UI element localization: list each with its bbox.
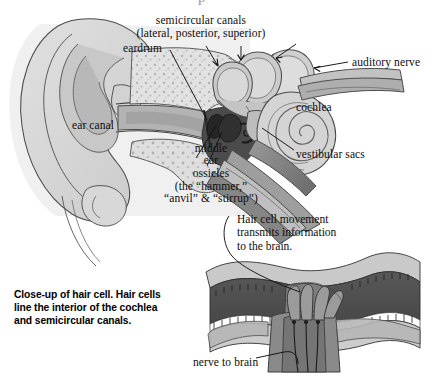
- label-middle-ear-line2: ear: [183, 154, 239, 167]
- label-semicircular-canals-detail: (lateral, posterior, superior): [112, 27, 290, 40]
- figure-canvas: p semicircular canals (lateral, posterio…: [0, 0, 440, 378]
- hair-cell-closeup-group: [206, 253, 420, 372]
- label-vestibular-sacs: vestibular sacs: [296, 148, 365, 161]
- label-ossicles: ossicles: [170, 167, 252, 180]
- cropped-title-remnant: p: [198, 0, 206, 6]
- label-auditory-nerve: auditory nerve: [352, 56, 420, 69]
- label-ossicles-detail-line1: (the “hammer,”: [152, 180, 270, 193]
- label-nerve-to-brain: nerve to brain: [193, 356, 258, 369]
- label-semicircular-canals: semicircular canals: [118, 14, 284, 27]
- label-middle-ear-line1: middle: [183, 142, 239, 155]
- caption-closeup-hair-cell: Close-up of hair cell. Hair cells line t…: [14, 288, 210, 328]
- label-ear-canal: ear canal: [72, 119, 114, 132]
- label-eardrum: eardrum: [123, 42, 162, 55]
- note-hair-cell-movement: Hair cell movement transmits information…: [237, 213, 427, 253]
- label-cochlea: cochlea: [296, 101, 332, 114]
- label-ossicles-detail-line2: “anvil” & “stirrup”): [152, 192, 270, 205]
